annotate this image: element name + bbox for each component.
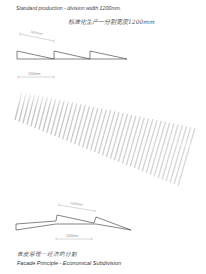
dimension-label-horizontal: 1200mm — [28, 72, 41, 76]
top-horizontal-dimension: 1200mm — [18, 72, 54, 79]
diagram-canvas: 1200mm 1200mm 1200mm 1200mm — [0, 0, 206, 274]
dimension-label-bottom-lower: 1200mm — [66, 234, 79, 238]
top-sawtooth-profile — [17, 51, 127, 59]
bottom-lower-dimension: 1200mm — [56, 234, 92, 241]
dimension-label-slanted: 1200mm — [30, 30, 43, 37]
caption-english: Facade Principle - Economical Subdivisio… — [17, 260, 121, 266]
top-slanted-dimension: 1200mm — [20, 30, 54, 43]
bottom-upper-dimension: 1200mm — [59, 201, 95, 213]
facade-stripe-band — [10, 88, 200, 186]
caption-chinese: 表皮原理一经济的分割 — [17, 250, 77, 258]
bottom-sawtooth-profile — [16, 215, 131, 230]
dimension-label-bottom-upper: 1200mm — [70, 201, 83, 207]
